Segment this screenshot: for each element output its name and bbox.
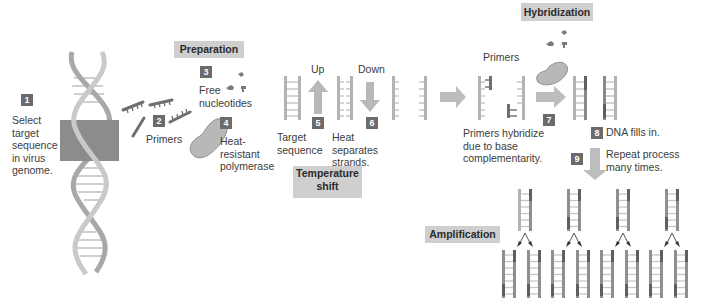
step-badge-5: 5 (312, 117, 324, 129)
section-preparation: Preparation (174, 41, 244, 58)
step-9-label: Repeat process many times. (606, 148, 680, 173)
down-label: Down (358, 63, 385, 76)
step-badge-9: 9 (571, 153, 583, 165)
section-amplification: Amplification (425, 226, 500, 243)
arrow-up-icon (308, 80, 328, 114)
split-arrow-icons (517, 233, 680, 247)
step-4-label: Heat- resistant polymerase (220, 135, 274, 173)
section-temperature-shift: Temperature shift (293, 166, 362, 198)
section-hybridization: Hybridization (521, 3, 593, 21)
primer-bound (489, 76, 492, 90)
arrow-down-icon (583, 148, 607, 180)
amplification-gen1 (518, 189, 679, 231)
arrow-right-icon (440, 86, 466, 108)
polymerase-icon (537, 62, 568, 85)
step-badge-4: 4 (220, 117, 232, 129)
filled-strands-icon (573, 76, 617, 120)
step-7-label: Primers hybridize due to base complement… (463, 127, 544, 165)
step-8-label: DNA fills in. (606, 126, 660, 139)
amplification-gen2 (502, 250, 688, 298)
step-badge-3: 3 (200, 66, 212, 78)
step-1-label: Select target sequence in virus genome. (12, 114, 58, 177)
step-5-label: Target sequence (277, 131, 323, 156)
nucleotide-icon (546, 30, 567, 48)
arrow-right-icon (536, 86, 566, 108)
step-badge-6: 6 (366, 117, 378, 129)
step-badge-2: 2 (153, 115, 165, 127)
target-ladder-icon (284, 76, 301, 120)
primers-top-label: Primers (483, 51, 519, 64)
arrow-down-icon (360, 82, 380, 112)
step-3-label: Free nucleotides (199, 84, 252, 109)
step-2-label: Primers (146, 133, 182, 146)
single-strand-icon (392, 76, 427, 120)
step-badge-1: 1 (21, 94, 33, 106)
step-badge-8: 8 (591, 127, 603, 139)
hybridizing-strands-icon (478, 76, 525, 120)
step-6-label: Heat separates strands. (332, 131, 378, 169)
heating-ladder-icon (337, 76, 353, 120)
up-label: Up (311, 63, 324, 76)
step-badge-7: 7 (543, 114, 555, 126)
